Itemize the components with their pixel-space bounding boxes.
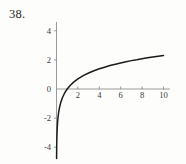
x-tick-label-2: 2: [76, 90, 80, 100]
y-tick-label-neg2: -2: [44, 113, 51, 123]
plot-area: 246810420-2-4: [0, 0, 186, 164]
x-tick-label-6: 6: [119, 90, 124, 100]
y-tick-label-0: 0: [47, 84, 51, 94]
y-tick-label-4: 4: [47, 26, 52, 36]
x-tick-label-8: 8: [140, 90, 144, 100]
x-tick-label-10: 10: [159, 90, 168, 100]
axes-group: [57, 22, 170, 159]
figure-container: 38. 246810420-2-4: [0, 0, 186, 164]
y-tick-label-2: 2: [47, 55, 51, 65]
y-tick-label-neg4: -4: [44, 142, 52, 152]
data-curve-ln-x: [57, 56, 164, 159]
x-tick-label-4: 4: [97, 90, 102, 100]
